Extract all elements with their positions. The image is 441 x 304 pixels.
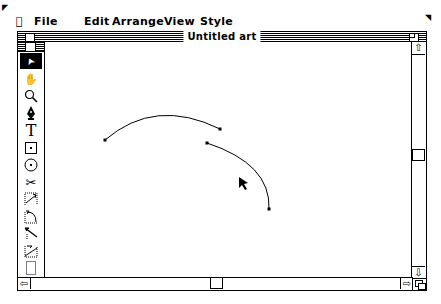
drawing-canvas[interactable] [45,42,413,279]
palette-close-box[interactable] [25,42,36,52]
text-icon: T [26,121,37,140]
apple-menu-icon[interactable]:  [16,14,23,30]
arrow-icon: ➤ [24,55,39,67]
document-window: Untitled art ➤ ✋ T ✂ ⇧ ⇩ [17,31,427,291]
scroll-up-button[interactable]: ⇧ [412,42,425,55]
menu-edit[interactable]: Edit [84,14,110,30]
arc-icon [23,208,39,224]
scissors-icon: ✂ [26,175,37,190]
text-tool[interactable]: T [20,122,42,138]
horizontal-scroll-thumb[interactable] [210,277,223,289]
magnifier-icon [24,89,38,103]
anchor-point[interactable] [104,139,107,142]
oval-tool[interactable] [20,157,42,173]
anchor-point[interactable] [219,128,222,131]
magnifier-tool[interactable] [20,88,42,104]
pen-icon [25,105,37,121]
menu-style[interactable]: Style [200,14,233,30]
arrow-tool[interactable]: ➤ [20,53,42,69]
line-icon [23,225,39,241]
menu-bar:  File Edit Arrange View Style [0,14,441,30]
polygon-tool[interactable] [20,242,42,258]
menu-arrange[interactable]: Arrange [112,14,164,30]
size-box[interactable] [412,278,426,290]
freehand-icon [23,191,39,207]
freehand-tool[interactable] [20,191,42,207]
anchor-point[interactable] [268,208,271,211]
grow-icon-front [418,283,426,290]
menu-view[interactable]: View [164,14,195,30]
screen-corner-top-left: ◤ [2,4,8,12]
rectangle-icon [25,142,37,154]
oval-icon [24,158,38,172]
line-tool[interactable] [20,225,42,241]
curve-path-2[interactable] [207,143,269,209]
polygon-icon [23,242,39,258]
arc-tool[interactable] [20,208,42,224]
palette-header[interactable] [18,42,44,52]
vertical-scroll-thumb[interactable] [412,149,425,161]
zoom-box[interactable] [409,33,419,42]
scroll-left-button[interactable]: ⇦ [18,278,31,289]
artwork [45,42,413,279]
menu-file[interactable]: File [34,14,58,30]
grabber-hand-tool[interactable]: ✋ [20,71,42,87]
window-title: Untitled art [183,31,260,42]
hand-icon: ✋ [24,73,38,86]
tool-palette: ➤ ✋ T ✂ [18,42,45,279]
scissors-tool[interactable]: ✂ [20,174,42,190]
curve-path-1[interactable] [105,115,220,140]
horizontal-scrollbar[interactable]: ⇦ ⇨ [18,277,413,290]
close-box[interactable] [25,33,35,42]
pen-tool[interactable] [20,105,42,121]
mouse-pointer-icon [239,177,248,190]
blank-tool[interactable] [20,260,42,276]
dotted-rect-icon [25,260,37,276]
rectangle-tool[interactable] [20,140,42,156]
vertical-scrollbar[interactable]: ⇧ ⇩ [411,42,426,279]
anchor-point[interactable] [206,142,209,145]
